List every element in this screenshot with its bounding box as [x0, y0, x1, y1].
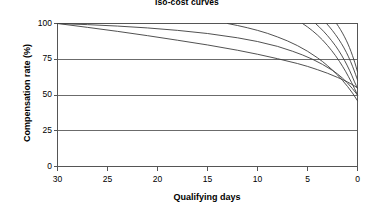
gridlines	[58, 59, 358, 131]
data-curves	[58, 24, 358, 101]
curve-iso-cost-5	[316, 24, 358, 89]
tick-marks	[54, 24, 358, 171]
plot-area	[0, 0, 374, 219]
chart-figure: Iso-cost curves Compensation rate (%) Qu…	[0, 0, 374, 219]
